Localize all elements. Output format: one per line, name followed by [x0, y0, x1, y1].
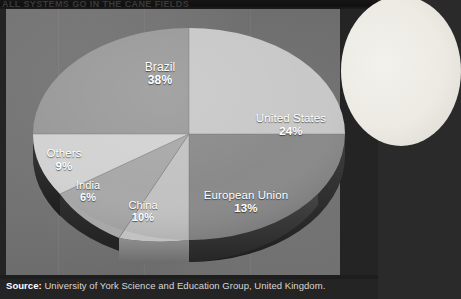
source-credit: Source: University of York Science and E…	[6, 280, 376, 291]
pie-label-european-union: European Union 13%	[186, 190, 306, 214]
pie-label-india-name: India	[58, 180, 118, 191]
pie-label-united-states-value: 24%	[232, 126, 350, 138]
pie-label-brazil: Brazil 38%	[112, 61, 208, 86]
pie-label-others-name: Others	[28, 148, 100, 160]
pie-label-united-states: United States 24%	[232, 113, 350, 137]
pie-label-india-value: 6%	[58, 192, 118, 203]
pie-label-others-value: 9%	[28, 161, 100, 173]
scan-fold-line	[58, 9, 59, 275]
pie-label-united-states-name: United States	[232, 113, 350, 125]
pie-label-european-union-value: 13%	[186, 203, 306, 215]
pie-label-china: China 10%	[110, 200, 176, 223]
source-label: Source:	[6, 280, 42, 291]
bleed-circle-graphic	[341, 0, 461, 146]
pie-label-brazil-name: Brazil	[112, 61, 208, 73]
pie-label-others: Others 9%	[28, 148, 100, 172]
source-text: University of York Science and Education…	[44, 280, 325, 291]
pie-label-brazil-value: 38%	[112, 74, 208, 86]
pie-label-india: India 6%	[58, 180, 118, 203]
pie-label-china-value: 10%	[110, 212, 176, 223]
chart-panel	[6, 9, 340, 275]
pie-label-european-union-name: European Union	[186, 190, 306, 202]
scan-fold-line	[250, 9, 251, 275]
scan-fold-line	[144, 9, 145, 275]
panel-gutter	[0, 275, 378, 279]
pie-label-china-name: China	[110, 200, 176, 211]
cropped-headline-strip: ALL SYSTEMS GO IN THE CANE FIELDS	[0, 0, 378, 9]
